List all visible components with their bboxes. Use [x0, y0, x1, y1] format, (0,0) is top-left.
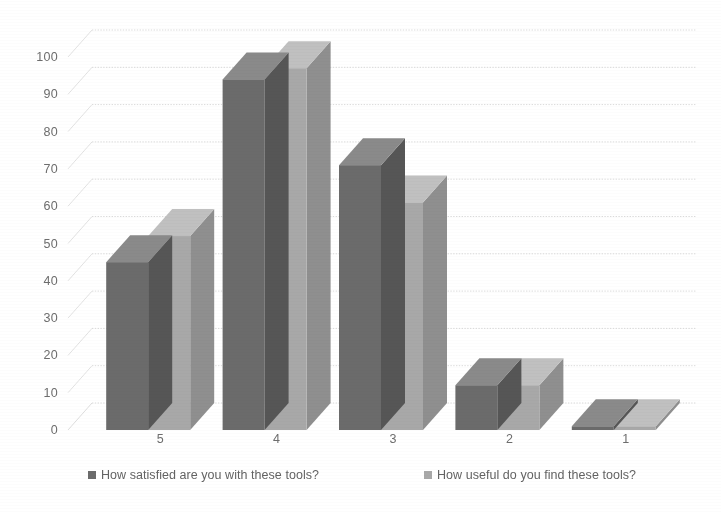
y-tick-label: 80: [4, 125, 58, 139]
y-tick-label: 20: [4, 348, 58, 362]
x-tick-label: 5: [130, 432, 190, 446]
y-tick-label: 40: [4, 274, 58, 288]
chart-legend: How satisfied are you with these tools?H…: [0, 468, 721, 494]
y-tick-label: 100: [4, 50, 58, 64]
bar-chart: 0102030405060708090100 54321 How satisfi…: [0, 0, 721, 512]
y-tick-label: 70: [4, 162, 58, 176]
y-tick-label: 60: [4, 199, 58, 213]
y-tick-label: 50: [4, 237, 58, 251]
legend-label: How satisfied are you with these tools?: [101, 468, 319, 482]
x-axis: 54321: [0, 432, 721, 456]
plot-area: 0102030405060708090100 54321: [0, 0, 721, 460]
legend-label: How useful do you find these tools?: [437, 468, 636, 482]
y-tick-label: 10: [4, 386, 58, 400]
legend-swatch-icon: [424, 471, 432, 479]
legend-swatch-icon: [88, 471, 96, 479]
x-tick-label: 3: [363, 432, 423, 446]
legend-entry[interactable]: How useful do you find these tools?: [424, 468, 636, 482]
bar-3-series1: [339, 138, 405, 430]
bar-5-series1: [106, 235, 172, 430]
x-tick-label: 4: [247, 432, 307, 446]
x-tick-label: 2: [479, 432, 539, 446]
legend-entry[interactable]: How satisfied are you with these tools?: [88, 468, 319, 482]
bar-4-series1: [223, 52, 289, 430]
y-tick-label: 90: [4, 87, 58, 101]
y-axis: 0102030405060708090100: [0, 0, 58, 460]
bars: [106, 41, 680, 430]
x-tick-label: 1: [596, 432, 656, 446]
y-tick-label: 30: [4, 311, 58, 325]
